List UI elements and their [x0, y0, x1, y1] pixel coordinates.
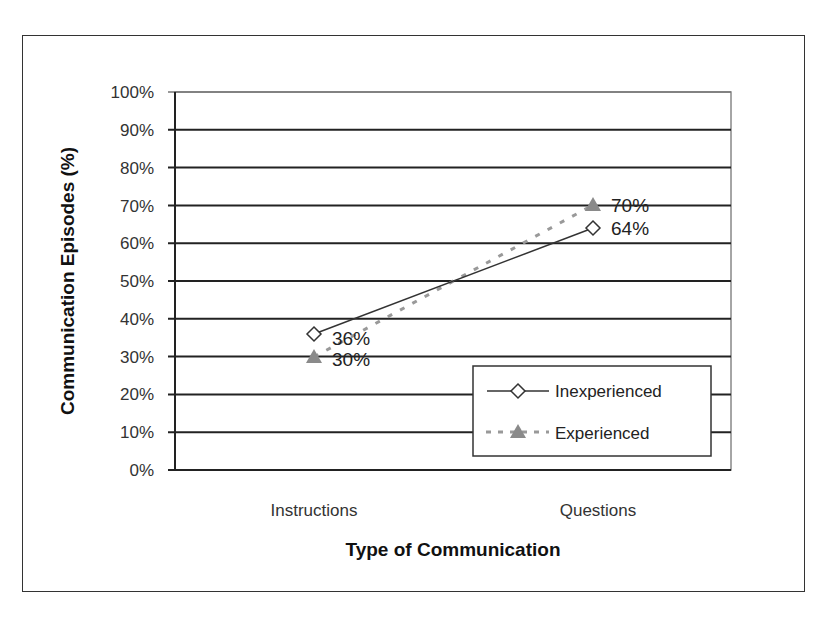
legend: Inexperienced Experienced: [473, 366, 711, 456]
y-tick-100: 100%: [111, 83, 154, 102]
legend-label-experienced: Experienced: [555, 424, 650, 443]
y-tick-30: 30%: [120, 348, 154, 367]
y-tick-40: 40%: [120, 310, 154, 329]
diamond-marker-icon: [586, 221, 600, 235]
label-inexp-questions: 64%: [611, 218, 649, 239]
label-inexp-instructions: 36%: [332, 328, 370, 349]
label-exp-instructions: 30%: [332, 349, 370, 370]
y-axis-title: Communication Episodes (%): [57, 147, 78, 415]
y-tick-70: 70%: [120, 197, 154, 216]
y-tick-10: 10%: [120, 423, 154, 442]
x-tick-instructions: Instructions: [271, 501, 358, 520]
diamond-marker-icon: [307, 327, 321, 341]
chart-svg: 100% 90% 80% 70% 60% 50% 40% 30% 20% 10%…: [0, 0, 830, 625]
legend-label-inexperienced: Inexperienced: [555, 382, 662, 401]
y-tick-labels: 100% 90% 80% 70% 60% 50% 40% 30% 20% 10%…: [111, 83, 154, 480]
x-tick-questions: Questions: [560, 501, 637, 520]
triangle-marker-icon: [585, 197, 601, 211]
label-exp-questions: 70%: [611, 195, 649, 216]
y-tick-80: 80%: [120, 159, 154, 178]
y-tick-20: 20%: [120, 385, 154, 404]
x-axis-title: Type of Communication: [346, 539, 561, 560]
y-tick-60: 60%: [120, 234, 154, 253]
y-tick-90: 90%: [120, 121, 154, 140]
y-tick-50: 50%: [120, 272, 154, 291]
y-tick-0: 0%: [129, 461, 154, 480]
